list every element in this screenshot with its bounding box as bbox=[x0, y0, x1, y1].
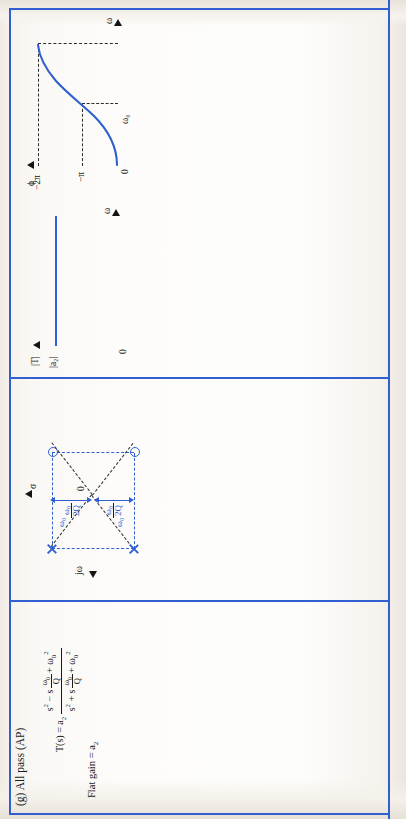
measure-arrow-lower-bottom bbox=[129, 498, 134, 504]
flat-gain-text: Flat gain = a bbox=[86, 745, 97, 798]
formula-lhs: T(s) = a2 bbox=[54, 717, 65, 752]
bracket-upper-den: 2Q bbox=[71, 503, 81, 518]
row-caption: (g) All pass (AP) bbox=[14, 728, 26, 806]
measure-line-upper bbox=[54, 500, 90, 501]
table-rule-bottom bbox=[9, 813, 388, 815]
phase-response-curve bbox=[14, 12, 194, 196]
table-rule-left bbox=[9, 8, 11, 814]
magnitude-response-line bbox=[55, 216, 57, 346]
radius-label-upper: ω₀ bbox=[56, 518, 66, 527]
bracket-label-lower: ω₀ 2Q bbox=[104, 502, 124, 519]
zero-lower-right-icon bbox=[130, 447, 140, 457]
formula-fraction: s2 − sω0Q+ ω02 s2 + sω0Q+ ω02 bbox=[40, 648, 82, 714]
bracket-label-upper: ω₀ 2Q bbox=[62, 502, 82, 519]
measure-arrow-upper-top bbox=[50, 498, 55, 504]
table-rule-divider-2 bbox=[9, 377, 388, 379]
pole-upper-left-icon bbox=[46, 544, 57, 555]
magnitude-y-axis bbox=[14, 371, 90, 372]
pole-lower-left-icon bbox=[128, 544, 139, 555]
magnitude-x-axis bbox=[90, 242, 91, 372]
radius-label-lower: ω₀ bbox=[114, 518, 124, 527]
formula-numerator: s2 − sω0Q+ ω02 bbox=[40, 648, 61, 714]
jomega-axis-label: jω bbox=[74, 566, 84, 575]
flat-gain-label: Flat gain = a2 bbox=[86, 742, 100, 798]
measure-line-lower bbox=[98, 500, 132, 501]
pole-zero-cell: σ jω 0 ω₀ ω₀ ω₀ 2Q bbox=[14, 395, 204, 595]
magnitude-y-axis-label: |T| bbox=[30, 356, 40, 366]
scanned-textbook-page: (g) All pass (AP) T(s) = a2 s2 − sω0Q+ ω… bbox=[0, 0, 406, 819]
zero-upper-right-icon bbox=[48, 447, 58, 457]
table-rule-right bbox=[388, 0, 390, 819]
magnitude-x-axis-label: ω bbox=[102, 208, 112, 214]
table-rule-divider-1 bbox=[9, 600, 388, 602]
magnitude-level-label: |a₂| bbox=[48, 357, 58, 368]
formula-denominator: s2 + sω0Q+ ω02 bbox=[61, 648, 83, 714]
bracket-lower-num: ω₀ bbox=[104, 503, 113, 518]
magnitude-y-axis-arrow bbox=[33, 342, 40, 350]
transfer-function-formula: T(s) = a2 s2 − sω0Q+ ω02 s2 + sω0Q+ ω02 bbox=[40, 648, 82, 752]
sigma-axis-label: σ bbox=[28, 484, 38, 489]
jomega-axis-arrow bbox=[89, 571, 97, 578]
bracket-upper-num: ω₀ bbox=[62, 503, 71, 518]
magnitude-plot: |T| ω 0 |a₂| bbox=[14, 202, 194, 372]
pz-dash-bottom bbox=[134, 453, 135, 549]
pz-dash-right bbox=[52, 452, 134, 453]
flat-gain-sub: 2 bbox=[92, 742, 100, 746]
radius-line-lower-right bbox=[92, 443, 133, 496]
magnitude-origin-label: 0 bbox=[118, 349, 128, 354]
magnitude-x-axis-arrow bbox=[112, 209, 120, 216]
sigma-axis bbox=[14, 594, 134, 595]
bracket-lower-den: 2Q bbox=[113, 503, 123, 518]
measure-arrow-upper-bottom bbox=[87, 498, 92, 504]
sigma-axis-arrow bbox=[25, 491, 32, 499]
table-rule-top bbox=[9, 8, 388, 10]
pz-origin-label: 0 bbox=[76, 486, 86, 491]
phase-plot: ϕ ω 0 −π −2π ω₀ bbox=[14, 12, 194, 196]
formula-cell: (g) All pass (AP) T(s) = a2 s2 − sω0Q+ ω… bbox=[14, 606, 124, 806]
pz-dash-left bbox=[52, 548, 134, 549]
measure-arrow-lower-top bbox=[94, 498, 99, 504]
response-plots-cell: |T| ω 0 |a₂| ϕ ω 0 −π −2π ω₀ bbox=[14, 12, 214, 372]
